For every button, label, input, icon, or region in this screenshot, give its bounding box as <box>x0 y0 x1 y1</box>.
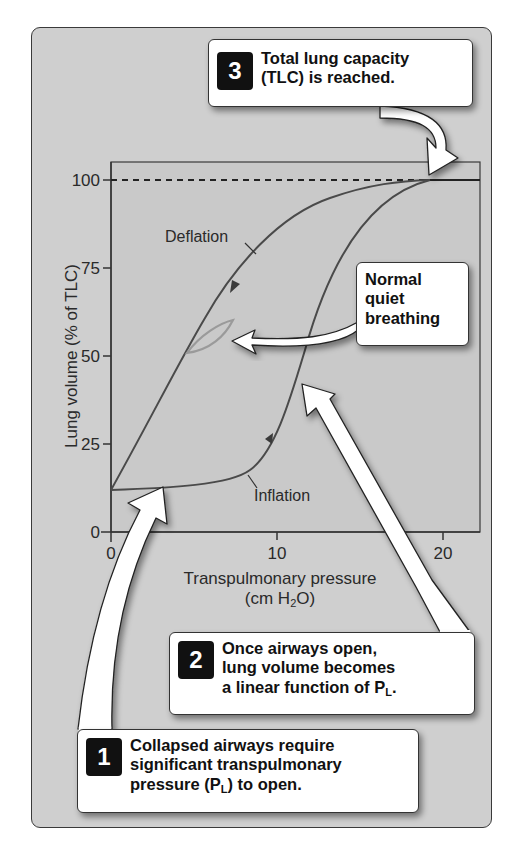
step-2-badge: 2 <box>178 641 214 679</box>
step-1-badge: 1 <box>86 738 122 776</box>
tlc-callout-line2: (TLC) is reached. <box>261 68 409 87</box>
tlc-callout-line1: Total lung capacity <box>261 49 409 68</box>
step-3-badge: 3 <box>217 52 253 90</box>
x-unit-suffix: O) <box>296 589 315 608</box>
normal-line1: Normal <box>365 270 440 289</box>
y-tick-label-100: 100 <box>60 172 100 189</box>
collapsed-callout-text: Collapsed airways require significant tr… <box>130 736 342 795</box>
collapsed-line3-prefix: pressure (P <box>130 775 221 793</box>
linear-line3-sub: L <box>385 686 392 698</box>
collapsed-airways-callout: 1 Collapsed airways require significant … <box>77 729 419 813</box>
tlc-callout-text: Total lung capacity (TLC) is reached. <box>261 49 409 88</box>
x-axis-title: Transpulmonary pressure (cm H2O) <box>140 569 420 611</box>
y-ticks <box>103 180 111 444</box>
linear-line3-prefix: a linear function of P <box>222 678 385 696</box>
linear-line2: lung volume becomes <box>222 658 397 677</box>
collapsed-line3: pressure (PL) to open. <box>130 775 342 796</box>
x-tick-label-20: 20 <box>423 545 463 562</box>
collapsed-line1: Collapsed airways require <box>130 736 342 755</box>
tlc-callout: 3 Total lung capacity (TLC) is reached. <box>208 39 473 107</box>
normal-breathing-callout: Normal quiet breathing <box>356 262 469 346</box>
x-axis-title-main: Transpulmonary pressure <box>140 569 420 589</box>
x-unit-prefix: (cm H <box>245 589 290 608</box>
collapsed-line3-suffix: ) to open. <box>228 775 302 793</box>
collapsed-line2: significant transpulmonary <box>130 755 342 774</box>
linear-line1: Once airways open, <box>222 639 397 658</box>
x-ticks <box>277 532 443 540</box>
linear-line3-suffix: . <box>392 678 397 696</box>
inflation-label: Inflation <box>254 487 310 505</box>
collapsed-line3-sub: L <box>221 783 228 795</box>
linear-line3: a linear function of PL. <box>222 678 397 699</box>
linear-function-callout: 2 Once airways open, lung volume becomes… <box>169 632 475 715</box>
y-axis-title: Lung volume (% of TLC) <box>62 264 82 448</box>
normal-line3: breathing <box>365 309 440 328</box>
linear-callout-text: Once airways open, lung volume becomes a… <box>222 639 397 698</box>
x-tick-label-0: 0 <box>91 545 131 562</box>
x-tick-label-10: 10 <box>257 545 297 562</box>
plot-area <box>111 162 480 532</box>
deflation-label: Deflation <box>165 228 228 246</box>
normal-line2: quiet <box>365 289 440 308</box>
normal-breathing-text: Normal quiet breathing <box>365 270 440 328</box>
x-axis-title-unit: (cm H2O) <box>140 589 420 610</box>
y-tick-label-0: 0 <box>60 524 100 541</box>
